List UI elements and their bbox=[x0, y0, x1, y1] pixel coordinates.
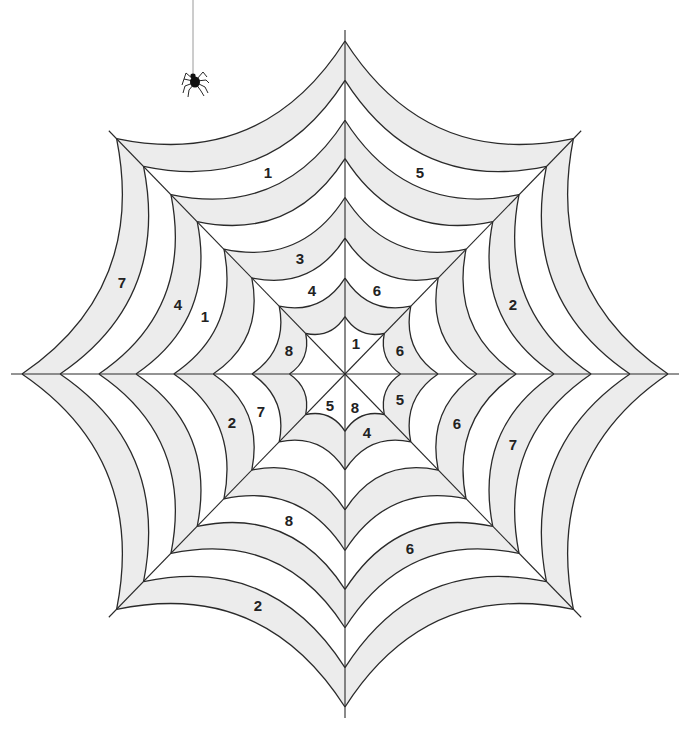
band-number-label: 5 bbox=[416, 164, 424, 181]
band-number-label: 2 bbox=[254, 597, 262, 614]
spider-web-color-by-number: 15741346281627585467862 bbox=[0, 0, 690, 733]
band-number-label: 7 bbox=[118, 274, 126, 291]
band-number-label: 6 bbox=[396, 342, 404, 359]
band-number-label: 4 bbox=[363, 424, 372, 441]
web-spokes bbox=[11, 30, 679, 718]
band-number-label: 5 bbox=[396, 391, 404, 408]
spider-icon bbox=[182, 0, 209, 97]
band-number-label: 8 bbox=[351, 399, 359, 416]
band-number-label: 6 bbox=[453, 415, 461, 432]
band-number-label: 4 bbox=[308, 282, 317, 299]
band-number-label: 6 bbox=[406, 540, 414, 557]
band-number-label: 3 bbox=[296, 250, 304, 267]
band-number-label: 5 bbox=[326, 397, 334, 414]
band-number-label: 7 bbox=[509, 436, 517, 453]
band-number-label: 2 bbox=[228, 414, 236, 431]
band-number-label: 1 bbox=[264, 164, 272, 181]
band-number-label: 4 bbox=[174, 296, 183, 313]
band-number-label: 7 bbox=[257, 403, 265, 420]
spider-body bbox=[190, 77, 200, 88]
band-number-label: 2 bbox=[509, 296, 517, 313]
band-number-label: 6 bbox=[373, 282, 381, 299]
spider-leg bbox=[197, 72, 207, 79]
band-number-label: 1 bbox=[352, 335, 360, 352]
band-number-label: 8 bbox=[285, 342, 293, 359]
band-number-label: 8 bbox=[285, 512, 293, 529]
band-number-label: 1 bbox=[201, 308, 209, 325]
